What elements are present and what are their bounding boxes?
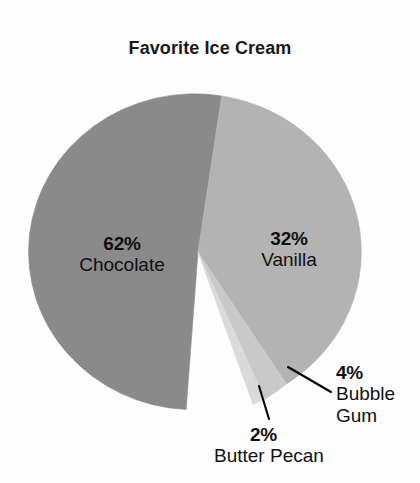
pie-label-vanilla-name: Vanilla: [237, 249, 341, 270]
pie-label-bubble-gum: 4% Bubble Gum: [336, 362, 418, 426]
pie-label-chocolate: 62% Chocolate: [62, 233, 182, 276]
pie-label-butter-pecan-value: 2%: [214, 424, 404, 445]
pie-label-butter-pecan-name: Butter Pecan: [214, 445, 404, 466]
pie-label-vanilla: 32% Vanilla: [237, 228, 341, 271]
pie-chart-figure: Favorite Ice Cream 62% Chocolate 32% Van…: [0, 0, 420, 483]
pie-label-chocolate-value: 62%: [62, 233, 182, 254]
pie-label-bubble-gum-name-line2: Gum: [336, 405, 418, 426]
pie-label-vanilla-value: 32%: [237, 228, 341, 249]
pie-label-butter-pecan: 2% Butter Pecan: [214, 424, 404, 467]
pie-label-chocolate-name: Chocolate: [62, 254, 182, 275]
leader-line-bubble-gum: [288, 367, 331, 392]
pie-label-bubble-gum-value: 4%: [336, 362, 418, 383]
pie-label-bubble-gum-name-line1: Bubble: [336, 383, 418, 404]
